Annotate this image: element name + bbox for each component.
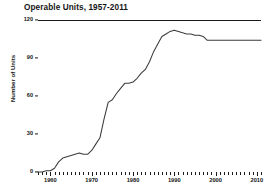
x-tick-minor xyxy=(88,172,89,175)
y-tick-label: 30 xyxy=(27,131,33,137)
x-tick-minor xyxy=(46,172,47,175)
x-tick-minor xyxy=(211,172,212,175)
x-tick-minor xyxy=(59,172,60,175)
x-tick-minor xyxy=(178,172,179,175)
x-tick-minor xyxy=(116,172,117,175)
x-tick-minor xyxy=(145,172,146,175)
x-tick-minor xyxy=(100,172,101,175)
x-tick-major xyxy=(257,172,258,176)
x-tick-minor xyxy=(195,172,196,175)
x-tick-minor xyxy=(240,172,241,175)
x-tick-label: 1990 xyxy=(168,178,181,184)
x-tick-minor xyxy=(236,172,237,175)
x-tick-minor xyxy=(170,172,171,175)
y-tick-label: 60 xyxy=(27,93,33,99)
x-tick-minor xyxy=(191,172,192,175)
x-tick-minor xyxy=(232,172,233,175)
x-tick-minor xyxy=(199,172,200,175)
x-tick-minor xyxy=(162,172,163,175)
x-tick-minor xyxy=(125,172,126,175)
x-tick-minor xyxy=(83,172,84,175)
x-tick-minor xyxy=(55,172,56,175)
x-tick-minor xyxy=(183,172,184,175)
x-tick-minor xyxy=(121,172,122,175)
x-tick-label: 2000 xyxy=(209,178,222,184)
x-tick-minor xyxy=(249,172,250,175)
x-tick-label: 1980 xyxy=(127,178,140,184)
x-tick-minor xyxy=(166,172,167,175)
chart-title: Operable Units, 1957-2011 xyxy=(24,3,128,12)
x-tick-minor xyxy=(129,172,130,175)
x-tick-major xyxy=(133,172,134,176)
x-tick-minor xyxy=(67,172,68,175)
x-tick-minor xyxy=(244,172,245,175)
x-tick-minor xyxy=(187,172,188,175)
x-tick-major xyxy=(216,172,217,176)
x-tick-minor xyxy=(253,172,254,175)
data-series-line xyxy=(38,20,261,172)
x-tick-major xyxy=(174,172,175,176)
x-tick-minor xyxy=(63,172,64,175)
x-tick-minor xyxy=(104,172,105,175)
x-tick-minor xyxy=(79,172,80,175)
x-tick-minor xyxy=(71,172,72,175)
y-axis-label: Number of Units xyxy=(9,49,16,109)
x-tick-minor xyxy=(207,172,208,175)
y-tick-label: 120 xyxy=(24,17,33,23)
y-tick-label: 0 xyxy=(30,169,33,175)
operable-units-chart: Operable Units, 1957-2011 Number of Unit… xyxy=(0,0,265,194)
x-tick-major xyxy=(50,172,51,176)
x-tick-label: 2010 xyxy=(251,178,264,184)
x-tick-minor xyxy=(158,172,159,175)
x-tick-minor xyxy=(154,172,155,175)
x-tick-minor xyxy=(141,172,142,175)
y-tick-label: 90 xyxy=(27,55,33,61)
x-tick-minor xyxy=(224,172,225,175)
x-tick-minor xyxy=(108,172,109,175)
x-tick-major xyxy=(92,172,93,176)
x-tick-minor xyxy=(75,172,76,175)
x-tick-minor xyxy=(150,172,151,175)
x-tick-minor xyxy=(203,172,204,175)
x-tick-label: 1970 xyxy=(85,178,98,184)
x-tick-minor xyxy=(137,172,138,175)
x-tick-minor xyxy=(96,172,97,175)
x-tick-label: 1960 xyxy=(44,178,57,184)
plot-area: 0306090120 196019701980199020002010 xyxy=(38,20,261,172)
x-tick-minor xyxy=(220,172,221,175)
x-tick-minor xyxy=(112,172,113,175)
x-tick-minor xyxy=(261,172,262,175)
x-tick-minor xyxy=(228,172,229,175)
